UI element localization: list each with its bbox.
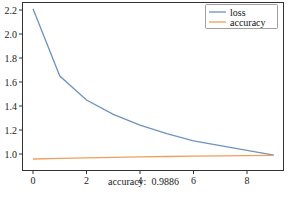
- loss-line: [33, 9, 274, 155]
- caption-label: accuracy:: [108, 176, 146, 187]
- y-tick-label: 1.6: [5, 77, 18, 88]
- y-tick-label: 1.2: [5, 125, 18, 136]
- y-tick-label: 1.0: [5, 149, 18, 160]
- caption-value: 0.9886: [151, 176, 179, 187]
- y-tick-label: 1.8: [5, 53, 18, 64]
- line-chart: 1.01.21.41.61.82.02.2 02468 lossaccuracy: [0, 0, 287, 200]
- accuracy-legend-label: accuracy: [230, 17, 266, 28]
- accuracy-line: [33, 155, 274, 159]
- y-tick-label: 1.4: [5, 101, 18, 112]
- y-tick-label: 2.2: [5, 5, 18, 16]
- legend: lossaccuracy: [206, 5, 278, 29]
- y-axis: 1.01.21.41.61.82.02.2: [5, 5, 23, 160]
- accuracy-caption: accuracy: 0.9886: [0, 176, 287, 187]
- series-layer: [33, 9, 274, 159]
- y-tick-label: 2.0: [5, 29, 18, 40]
